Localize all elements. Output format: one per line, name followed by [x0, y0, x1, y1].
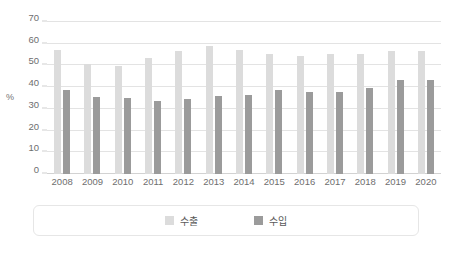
bar-수입-2016[interactable]	[306, 92, 313, 174]
bar-수입-2017[interactable]	[336, 92, 343, 174]
y-tick-label-40: 40	[28, 77, 39, 88]
bar-수출-2016[interactable]	[297, 56, 304, 174]
x-tick-label-2014: 2014	[229, 174, 259, 192]
x-tick-label-2013: 2013	[199, 174, 229, 192]
bar-group-2009	[77, 22, 107, 174]
x-tick-label-2017: 2017	[320, 174, 350, 192]
plot-area	[47, 22, 441, 174]
x-tick-label-2008: 2008	[47, 174, 77, 192]
bar-group-2014	[229, 22, 259, 174]
bar-수입-2010[interactable]	[124, 98, 131, 174]
bar-수출-2013[interactable]	[206, 46, 213, 174]
legend-item-수출[interactable]: 수출	[165, 213, 198, 228]
y-tick-label-30: 30	[28, 98, 39, 109]
y-tick-label-10: 10	[28, 142, 39, 153]
bar-수출-2010[interactable]	[115, 66, 122, 174]
chart-legend: 수출수입	[33, 205, 419, 236]
bar-수입-2018[interactable]	[366, 88, 373, 174]
legend-item-수입[interactable]: 수입	[254, 213, 287, 228]
bar-수입-2011[interactable]	[154, 101, 161, 174]
bar-group-2017	[320, 22, 350, 174]
x-tick-label-2019: 2019	[380, 174, 410, 192]
bar-수출-2011[interactable]	[145, 58, 152, 174]
bar-수출-2017[interactable]	[327, 54, 334, 174]
x-tick-label-2015: 2015	[259, 174, 289, 192]
bar-수입-2009[interactable]	[93, 97, 100, 174]
bar-group-2012	[168, 22, 198, 174]
bar-group-2016	[290, 22, 320, 174]
x-tick-label-2012: 2012	[168, 174, 198, 192]
bar-group-2019	[380, 22, 410, 174]
bar-group-2018	[350, 22, 380, 174]
bar-groups	[47, 22, 441, 174]
bar-group-2008	[47, 22, 77, 174]
bar-수출-2012[interactable]	[175, 51, 182, 174]
bar-수입-2013[interactable]	[215, 96, 222, 174]
y-tick-label-20: 20	[28, 120, 39, 131]
bar-group-2020	[411, 22, 441, 174]
bar-수출-2009[interactable]	[84, 64, 91, 174]
x-tick-label-2018: 2018	[350, 174, 380, 192]
bar-수출-2018[interactable]	[357, 54, 364, 174]
chart-container: % 010203040506070 2008200920102011201220…	[0, 0, 451, 253]
legend-label: 수출	[180, 213, 198, 228]
legend-swatch-icon	[254, 216, 263, 225]
bar-수출-2014[interactable]	[236, 50, 243, 174]
bar-group-2015	[259, 22, 289, 174]
bar-수출-2015[interactable]	[266, 54, 273, 175]
bar-수입-2019[interactable]	[397, 80, 404, 174]
y-tick-label-60: 60	[28, 33, 39, 44]
y-tick-label-50: 50	[28, 55, 39, 66]
x-tick-label-2010: 2010	[108, 174, 138, 192]
bar-수출-2008[interactable]	[54, 50, 61, 174]
y-tick-label-70: 70	[28, 12, 39, 23]
bar-수출-2020[interactable]	[418, 51, 425, 174]
bar-수입-2012[interactable]	[184, 99, 191, 174]
x-tick-label-2016: 2016	[290, 174, 320, 192]
bar-group-2013	[199, 22, 229, 174]
bar-수입-2008[interactable]	[63, 90, 70, 174]
bar-수입-2020[interactable]	[427, 80, 434, 174]
bar-chart: % 010203040506070 2008200920102011201220…	[0, 0, 451, 195]
legend-label: 수입	[269, 213, 287, 228]
x-tick-label-2011: 2011	[138, 174, 168, 192]
bar-수입-2014[interactable]	[245, 95, 252, 174]
x-tick-label-2009: 2009	[77, 174, 107, 192]
x-axis-ticks: 2008200920102011201220132014201520162017…	[47, 174, 441, 192]
y-tick-label-0: 0	[34, 164, 39, 175]
y-axis-ticks: 010203040506070	[0, 22, 47, 174]
x-tick-label-2020: 2020	[411, 174, 441, 192]
bar-group-2010	[108, 22, 138, 174]
bar-group-2011	[138, 22, 168, 174]
legend-swatch-icon	[165, 216, 174, 225]
bar-수출-2019[interactable]	[388, 51, 395, 174]
bar-수입-2015[interactable]	[275, 90, 282, 174]
